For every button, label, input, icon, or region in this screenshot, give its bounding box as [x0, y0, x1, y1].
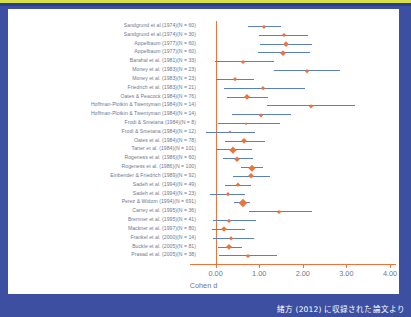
effect-size-marker [226, 244, 232, 250]
effect-size-marker [244, 94, 250, 100]
effect-size-marker [235, 156, 240, 161]
effect-size-marker [283, 41, 288, 46]
x-axis-tick [216, 265, 217, 268]
forest-row: Mackner et al. (1997)(N = 80) [8, 225, 399, 234]
study-label: Sadeh et al. (1994)(N = 49) [133, 180, 196, 189]
study-label: Tarter et al. (1984)(N = 101) [132, 144, 196, 153]
forest-row: Carrey et al. (1995)(N = 36) [8, 207, 399, 216]
effect-size-marker [309, 104, 313, 108]
study-label: Einbender & Friedrich (1989)(N = 92) [110, 171, 196, 180]
study-label: Rogeness et al. (1986)(N = 60) [124, 153, 196, 162]
study-label: Appelbaum (1977)(N = 60) [134, 39, 196, 48]
study-label: Mackner et al. (1997)(N = 80) [128, 224, 196, 233]
confidence-interval-bar [212, 229, 245, 230]
forest-row: Oates et al. (1984)(N = 78) [8, 137, 399, 146]
forest-row: Oates & Peacock (1984)(N = 76) [8, 93, 399, 102]
effect-size-marker [229, 236, 233, 240]
forest-row: Frankel et al. (2000)(N = 14) [8, 234, 399, 243]
forest-row: Friedrich et al. (1983)(N = 21) [8, 84, 399, 93]
study-label: Oates & Peacock (1984)(N = 76) [120, 92, 196, 101]
effect-size-marker [282, 33, 286, 37]
effect-size-marker [221, 227, 227, 233]
study-label: Prasad et al. (2005)(N = 38) [131, 250, 196, 259]
study-label: Money et al. (1983)(N = 23) [132, 65, 196, 74]
forest-row: Buckle et al. (2005)(N = 81) [8, 243, 399, 252]
confidence-interval-bar [218, 123, 279, 124]
forest-row: Sandgrund et al.(1974)(N = 60) [8, 22, 399, 31]
forest-row: Sadeh et al. (1994)(N = 49) [8, 181, 399, 190]
forest-row: Barahal et al. (1981)(N = 33) [8, 57, 399, 66]
x-axis-tick [390, 265, 391, 268]
effect-size-marker [235, 183, 240, 188]
study-label: Oates et al. (1984)(N = 78) [134, 136, 196, 145]
effect-size-marker [226, 192, 230, 196]
forest-row: Money et al. (1983)(N = 23) [8, 66, 399, 75]
study-label: Frankel et al. (2000)(N = 14) [130, 233, 196, 242]
x-axis-label: Cohen d [8, 281, 399, 290]
forest-row: Sandgrund et al.(1974)(N = 30) [8, 31, 399, 40]
study-label: Rogeness et al. (1986)(N = 100) [122, 162, 196, 171]
x-axis-tick [346, 265, 347, 268]
effect-size-marker [230, 147, 237, 154]
forest-row: Bremner et al. (1995)(N = 41) [8, 216, 399, 225]
forest-row: Money et al. (1983)(N = 23) [8, 75, 399, 84]
study-label: Sadeh et al. (1994)(N = 23) [133, 189, 196, 198]
forest-row: Appelbaum (1977)(N = 60) [8, 48, 399, 57]
x-axis-tick-label: 1.00 [252, 269, 266, 278]
effect-size-marker [261, 86, 265, 90]
slide-background: Cohen d Sandgrund et al.(1974)(N = 60)Sa… [0, 0, 411, 317]
forest-row: Hoffman-Plotkin & Twentyman (1984)(N = 1… [8, 110, 399, 119]
x-axis-tick-label: 4.00 [383, 269, 397, 278]
x-axis-tick [303, 265, 304, 268]
forest-row: Appelbaum (1977)(N = 60) [8, 40, 399, 49]
study-label: Hoffman-Plotkin & Twentyman (1984)(N = 1… [91, 100, 196, 109]
forest-plot: Cohen d Sandgrund et al.(1974)(N = 60)Sa… [8, 9, 399, 294]
study-label: Carrey et al. (1995)(N = 36) [132, 206, 196, 215]
study-label: Friedrich et al. (1983)(N = 21) [127, 83, 196, 92]
study-label: Appelbaum (1977)(N = 60) [134, 47, 196, 56]
study-label: Buckle et al. (2005)(N = 81) [132, 242, 196, 251]
forest-row: Einbender & Friedrich (1989)(N = 92) [8, 172, 399, 181]
confidence-interval-bar [213, 220, 257, 221]
forest-row: Prasad et al. (2005)(N = 38) [8, 251, 399, 260]
effect-size-marker [280, 50, 285, 55]
effect-size-marker [277, 210, 281, 214]
study-label: Frodi & Smetana (1984)(N = 12) [122, 127, 196, 136]
forest-row: Rogeness et al. (1986)(N = 60) [8, 154, 399, 163]
chart-panel: Cohen d Sandgrund et al.(1974)(N = 60)Sa… [8, 9, 399, 294]
forest-row: Hoffman-Plotkin & Twentyman (1984)(N = 1… [8, 101, 399, 110]
study-label: Hoffman-Plotkin & Twentyman (1984)(N = 1… [91, 109, 196, 118]
x-axis-line [190, 264, 396, 265]
effect-size-marker [227, 218, 231, 222]
forest-row: Frodi & Smetana (1984)(N = 12) [8, 128, 399, 137]
effect-size-marker [241, 138, 247, 144]
study-label: Frodi & Smetana (1984)(N = 8) [124, 118, 196, 127]
forest-row: Sadeh et al. (1994)(N = 23) [8, 190, 399, 199]
study-label: Barahal et al. (1981)(N = 33) [130, 56, 196, 65]
x-axis-tick [259, 265, 260, 268]
effect-size-marker [249, 164, 255, 170]
x-axis-tick-label: 0.00 [209, 269, 223, 278]
forest-row: Perez & Widom (1994)(N = 691) [8, 198, 399, 207]
source-caption: 緒方 (2012) に収録された論文より [277, 303, 405, 314]
effect-size-marker [238, 199, 246, 207]
study-label: Perez & Widom (1994)(N = 691) [122, 197, 196, 206]
top-accent-shade [0, 3, 411, 6]
effect-size-marker [262, 24, 267, 29]
forest-row: Frodi & Smetana (1984)(N = 8) [8, 119, 399, 128]
effect-size-marker [246, 254, 250, 258]
confidence-interval-bar [213, 238, 254, 239]
study-label: Bremner et al. (1995)(N = 41) [128, 215, 196, 224]
effect-size-marker [241, 60, 245, 64]
study-label: Money et al. (1983)(N = 23) [132, 74, 196, 83]
effect-size-marker [248, 173, 254, 179]
forest-row: Rogeness et al. (1986)(N = 100) [8, 163, 399, 172]
study-label: Sandgrund et al.(1974)(N = 30) [124, 30, 196, 39]
x-axis-tick-label: 2.00 [296, 269, 310, 278]
x-axis-tick-label: 3.00 [339, 269, 353, 278]
forest-row: Tarter et al. (1984)(N = 101) [8, 145, 399, 154]
study-label: Sandgrund et al.(1974)(N = 60) [124, 21, 196, 30]
